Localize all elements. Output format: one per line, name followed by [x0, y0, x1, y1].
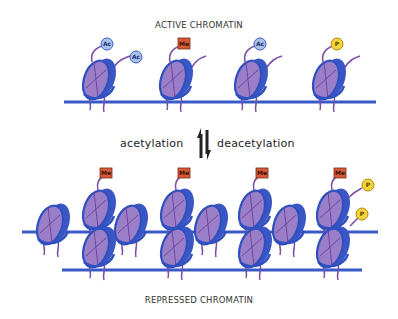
mark-label: P — [360, 210, 365, 217]
active-chromatin — [64, 38, 376, 112]
mark-label: P — [366, 181, 371, 188]
mark-label: Me — [257, 169, 267, 176]
mark-label: Me — [101, 169, 111, 176]
mark-label: Ac — [103, 40, 112, 47]
chromatin-diagram: Ac Ac Me Ac P Me Me Me Me P P — [0, 0, 398, 319]
mark-label: P — [335, 40, 340, 47]
mark-label: Ac — [132, 53, 141, 60]
acetylation-label: acetylation — [120, 137, 183, 150]
equilibrium-arrows-icon — [197, 128, 211, 160]
mark-label: Ac — [256, 40, 265, 47]
repressed-chromatin — [22, 168, 378, 280]
mark-label: Me — [179, 169, 189, 176]
repressed-chromatin-title: REPRESSED CHROMATIN — [0, 295, 398, 305]
mark-label: Me — [179, 40, 189, 47]
active-chromatin-title: ACTIVE CHROMATIN — [0, 20, 398, 30]
deacetylation-label: deacetylation — [217, 137, 295, 150]
mark-label: Me — [335, 169, 345, 176]
